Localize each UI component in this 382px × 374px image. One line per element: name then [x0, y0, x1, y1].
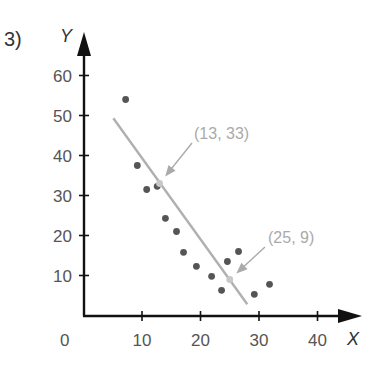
data-point	[193, 263, 200, 270]
annotated-point-marker	[226, 276, 233, 283]
origin-label: 0	[60, 331, 69, 350]
annotation-arrow	[170, 143, 192, 170]
annotation-label: (25, 9)	[268, 229, 314, 246]
annotation-arrow	[242, 247, 265, 268]
y-tick-label: 60	[53, 67, 72, 86]
x-tick-label: 40	[308, 331, 327, 350]
data-point	[218, 287, 225, 294]
y-tick-label: 50	[53, 107, 72, 126]
data-point	[173, 228, 180, 235]
data-point	[122, 96, 129, 103]
x-axis-arrow-icon	[338, 309, 362, 323]
x-tick-label: 10	[133, 331, 152, 350]
fit-line	[113, 118, 247, 304]
x-axis-title: X	[346, 329, 360, 349]
data-point	[134, 162, 141, 169]
data-point	[208, 273, 215, 280]
data-point	[162, 215, 169, 222]
scatter-chart: 3) Y X 102030405060 10203040 0 (13, 33)(…	[0, 0, 382, 374]
data-point	[235, 248, 242, 255]
data-point	[180, 249, 187, 256]
x-tick-label: 30	[250, 331, 269, 350]
data-point	[143, 186, 150, 193]
data-point	[251, 291, 258, 298]
annotated-point-marker	[156, 180, 163, 187]
y-axis-arrow-icon	[77, 32, 91, 56]
problem-number: 3)	[4, 28, 22, 50]
data-point	[266, 281, 273, 288]
annotation-label: (13, 33)	[194, 125, 249, 142]
x-tick-label: 20	[191, 331, 210, 350]
annotations: (13, 33)(25, 9)	[156, 125, 314, 283]
y-tick-label: 30	[53, 187, 72, 206]
arrowhead-icon	[165, 165, 175, 176]
y-tick-label: 20	[53, 227, 72, 246]
y-tick-label: 40	[53, 147, 72, 166]
y-tick-label: 10	[53, 267, 72, 286]
data-point	[224, 258, 231, 265]
y-axis-title: Y	[60, 26, 74, 46]
